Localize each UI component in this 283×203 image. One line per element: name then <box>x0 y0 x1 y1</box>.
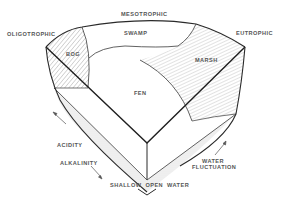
label-marsh: MARSH <box>195 57 218 63</box>
label-oligotrophic: OLIGOTROPHIC <box>7 31 56 37</box>
marsh-zone <box>140 24 245 121</box>
left-inner-line <box>54 88 147 180</box>
water-arrow <box>215 143 225 155</box>
alkalinity-arrow <box>91 166 101 177</box>
wetland-diagram: OLIGOTROPHIC MESOTROPHIC EUTROPHIC BOG S… <box>0 0 283 203</box>
label-fluctuation: FLUCTUATION <box>192 164 236 170</box>
right-inner-line <box>147 114 236 180</box>
right-wall-band <box>147 111 238 192</box>
label-mesotrophic: MESOTROPHIC <box>121 11 168 17</box>
label-fen: FEN <box>134 90 147 96</box>
label-shallow-open-water: SHALLOW OPEN WATER <box>110 182 189 188</box>
label-alkalinity: ALKALINITY <box>60 160 98 166</box>
label-eutrophic: EUTROPHIC <box>236 30 273 36</box>
label-bog: BOG <box>66 51 80 57</box>
acidity-arrow <box>55 114 66 124</box>
alkalinity-arrowhead <box>99 176 103 180</box>
label-swamp: SWAMP <box>124 30 147 36</box>
label-acidity: ACIDITY <box>57 142 83 148</box>
